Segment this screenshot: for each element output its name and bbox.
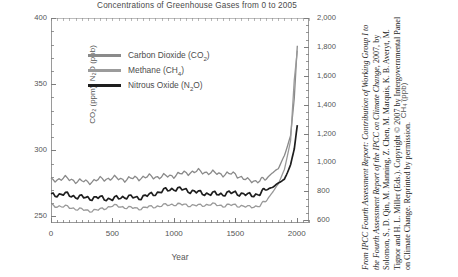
axis-minor-tick <box>192 18 193 21</box>
axis-minor-tick <box>291 18 292 21</box>
axis-minor-tick <box>88 220 89 223</box>
axis-minor-tick <box>306 97 309 98</box>
axis-minor-tick <box>51 71 54 72</box>
axis-minor-tick <box>309 220 310 223</box>
axis-tick-label: 400 <box>7 13 47 22</box>
axis-minor-tick <box>51 124 54 125</box>
axis-minor-tick <box>229 18 230 21</box>
axis-minor-tick <box>306 155 309 156</box>
axis-minor-tick <box>306 177 309 178</box>
legend-swatch <box>88 84 121 87</box>
axis-tick <box>304 134 309 135</box>
axis-minor-tick <box>51 177 54 178</box>
axis-minor-tick <box>272 18 273 21</box>
axis-minor-tick <box>223 18 224 21</box>
axis-minor-tick <box>198 18 199 21</box>
axis-minor-tick <box>306 199 309 200</box>
axis-minor-tick <box>241 220 242 223</box>
axis-minor-tick <box>260 18 261 21</box>
axis-minor-tick <box>306 213 309 214</box>
axis-minor-tick <box>186 220 187 223</box>
axis-minor-tick <box>248 18 249 21</box>
axis-tick <box>304 47 309 48</box>
legend-item[interactable]: Nitrous Oxide (N2O) <box>88 78 210 93</box>
axis-minor-tick <box>306 170 309 171</box>
axis-minor-tick <box>51 137 54 138</box>
axis-minor-tick <box>51 18 52 21</box>
axis-minor-tick <box>306 184 309 185</box>
axis-minor-tick <box>180 220 181 223</box>
axis-minor-tick <box>306 126 309 127</box>
axis-tick-label: 350 <box>7 79 47 88</box>
axis-minor-tick <box>235 18 236 21</box>
axis-minor-tick <box>198 220 199 223</box>
legend-swatch <box>88 69 121 72</box>
axis-minor-tick <box>284 220 285 223</box>
axis-minor-tick <box>106 220 107 223</box>
axis-minor-tick <box>278 18 279 21</box>
source-caption: From IPCC Fourth Assessment Report: Cont… <box>361 14 414 270</box>
axis-minor-tick <box>306 40 309 41</box>
legend-label: Methane (CH4) <box>128 65 184 77</box>
axis-tick-label: 0 <box>29 229 73 238</box>
axis-minor-tick <box>306 54 309 55</box>
axis-minor-tick <box>82 220 83 223</box>
axis-minor-tick <box>131 220 132 223</box>
axis-minor-tick <box>143 220 144 223</box>
axis-minor-tick <box>106 18 107 21</box>
axis-minor-tick <box>57 18 58 21</box>
chart-figure: Concentrations of Greenhouse Gases from … <box>0 0 352 277</box>
axis-minor-tick <box>186 18 187 21</box>
axis-minor-tick <box>51 45 54 46</box>
legend-item[interactable]: Methane (CH4) <box>88 63 210 78</box>
axis-minor-tick <box>76 18 77 21</box>
axis-tick <box>304 76 309 77</box>
axis-minor-tick <box>125 18 126 21</box>
axis-minor-tick <box>51 58 54 59</box>
axis-minor-tick <box>155 220 156 223</box>
axis-minor-tick <box>266 18 267 21</box>
axis-minor-tick <box>303 18 304 21</box>
axis-minor-tick <box>162 18 163 21</box>
axis-minor-tick <box>162 220 163 223</box>
axis-minor-tick <box>260 220 261 223</box>
axis-minor-tick <box>131 18 132 21</box>
axis-minor-tick <box>125 220 126 223</box>
axis-tick <box>51 84 56 85</box>
axis-minor-tick <box>137 220 138 223</box>
axis-minor-tick <box>254 220 255 223</box>
axis-minor-tick <box>155 18 156 21</box>
axis-minor-tick <box>69 18 70 21</box>
axis-minor-tick <box>217 18 218 21</box>
axis-minor-tick <box>69 220 70 223</box>
figure-root: Concentrations of Greenhouse Gases from … <box>0 0 458 277</box>
axis-minor-tick <box>57 220 58 223</box>
axis-tick-label: 300 <box>7 145 47 154</box>
axis-minor-tick <box>51 111 54 112</box>
axis-tick <box>51 150 56 151</box>
axis-minor-tick <box>192 220 193 223</box>
legend-item[interactable]: Carbon Dioxide (CO2) <box>88 48 210 63</box>
axis-minor-tick <box>205 18 206 21</box>
axis-minor-tick <box>82 18 83 21</box>
axis-minor-tick <box>278 220 279 223</box>
axis-minor-tick <box>306 32 309 33</box>
axis-tick <box>304 191 309 192</box>
axis-tick-label: 250 <box>7 211 47 220</box>
caption-column: From IPCC Fourth Assessment Report: Cont… <box>352 0 458 277</box>
axis-minor-tick <box>112 18 113 21</box>
axis-minor-tick <box>100 220 101 223</box>
axis-minor-tick <box>306 90 309 91</box>
axis-minor-tick <box>306 148 309 149</box>
axis-minor-tick <box>211 18 212 21</box>
axis-minor-tick <box>51 203 54 204</box>
axis-minor-tick <box>272 220 273 223</box>
axis-minor-tick <box>266 220 267 223</box>
axis-tick <box>235 218 236 223</box>
legend-label: Nitrous Oxide (N2O) <box>128 80 203 92</box>
axis-minor-tick <box>51 31 54 32</box>
axis-minor-tick <box>306 112 309 113</box>
axis-minor-tick <box>254 18 255 21</box>
axis-minor-tick <box>119 220 120 223</box>
axis-tick <box>112 218 113 223</box>
